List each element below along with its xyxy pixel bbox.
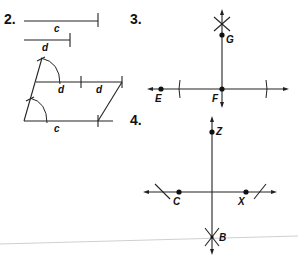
problem-2: 2. c d d d c bbox=[4, 11, 122, 134]
label-z: Z bbox=[215, 126, 223, 137]
label-x: X bbox=[237, 196, 246, 207]
problem-3: 3. E F G bbox=[130, 9, 289, 108]
label-c: C bbox=[173, 196, 181, 207]
arrow-up-icon bbox=[220, 9, 224, 15]
point-b bbox=[210, 235, 213, 238]
geometry-constructions: 2. c d d d c 3. bbox=[0, 0, 298, 264]
arrow-right-icon bbox=[283, 87, 289, 91]
top-label-d2: d bbox=[96, 84, 103, 95]
problem-2-number: 2. bbox=[4, 11, 16, 27]
left-side bbox=[24, 58, 42, 121]
label-b: B bbox=[219, 232, 226, 243]
top-label-d1: d bbox=[58, 84, 65, 95]
bottom-label-c: c bbox=[54, 123, 60, 134]
arrow-down-icon bbox=[210, 249, 214, 255]
arrow-right-icon bbox=[271, 190, 277, 194]
label-f: F bbox=[212, 93, 219, 104]
label-g: G bbox=[226, 34, 234, 45]
upper-arc bbox=[41, 58, 60, 84]
arrow-left-icon bbox=[147, 87, 153, 91]
point-e bbox=[158, 86, 163, 91]
point-x bbox=[243, 189, 248, 194]
page-edge-line bbox=[0, 236, 298, 244]
arrow-left-icon bbox=[143, 190, 149, 194]
arrow-up-icon bbox=[210, 116, 214, 122]
label-e: E bbox=[155, 93, 162, 104]
point-z bbox=[209, 129, 214, 134]
point-g bbox=[219, 32, 224, 37]
arrow-down-icon bbox=[220, 102, 224, 108]
problem-4: 4. Z C X B bbox=[130, 112, 277, 255]
point-c bbox=[176, 189, 181, 194]
problem-3-number: 3. bbox=[130, 11, 142, 27]
lower-arc bbox=[30, 98, 47, 123]
segment-d-label: d bbox=[42, 42, 49, 53]
point-f bbox=[219, 86, 224, 91]
segment-c-label: c bbox=[54, 23, 60, 34]
problem-4-number: 4. bbox=[130, 112, 142, 128]
